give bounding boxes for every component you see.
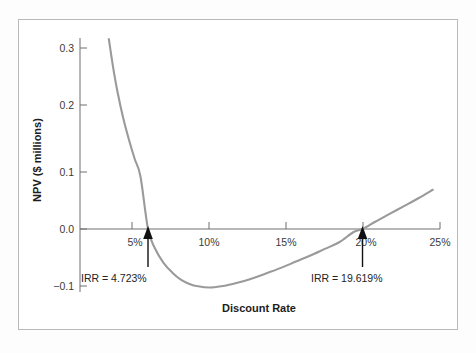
x-axis-ticks [132,222,440,229]
x-axis-title: Discount Rate [222,302,296,314]
irr-low-label: IRR = 4.723% [81,272,147,284]
irr-low-arrow [143,226,153,267]
x-tick-label-2: 15% [275,236,296,248]
x-tick-label-4: 25% [429,236,450,248]
npv-curve [109,39,433,288]
irr-high-label: IRR = 19.619% [311,272,383,284]
y-tick-label-4: −0.1 [53,280,74,292]
x-tick-label-1: 10% [198,236,219,248]
chart-frame: 0.3 0.2 0.1 0.0 −0.1 5% 10% 15% 20% 25% [18,19,458,330]
npv-vs-discount-rate-chart: 0.3 0.2 0.1 0.0 −0.1 5% 10% 15% 20% 25% [19,20,457,329]
y-axis-title: NPV ($ millions) [31,118,43,202]
y-axis-ticks [80,48,87,286]
y-tick-label-1: 0.2 [59,99,74,111]
figure-root: 0.3 0.2 0.1 0.0 −0.1 5% 10% 15% 20% 25% [0,0,476,353]
y-tick-label-3: 0.0 [59,223,74,235]
y-tick-label-2: 0.1 [59,166,74,178]
y-tick-label-0: 0.3 [59,42,74,54]
x-tick-label-0: 5% [127,236,142,248]
